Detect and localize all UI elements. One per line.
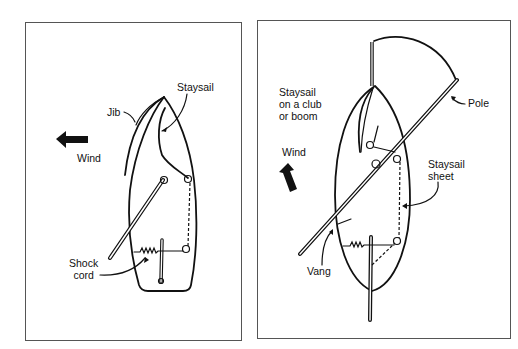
- label-vang: Vang: [307, 265, 331, 277]
- spinnaker-sail: [374, 37, 456, 80]
- staysail-sail: [159, 108, 188, 178]
- vang-leader: [322, 231, 332, 265]
- wind-arrow-right: [279, 163, 297, 192]
- wind-arrow-left: [56, 131, 88, 148]
- label-shock-cord: Shock cord: [69, 257, 98, 281]
- block-upper-left: [185, 176, 192, 183]
- shock-cord-leader: [100, 258, 145, 275]
- sheet-line-left: [188, 183, 190, 246]
- block-lower-left: [183, 246, 190, 253]
- staysail-sheet-line: [399, 162, 400, 238]
- label-wind-right: Wind: [282, 146, 306, 158]
- jib-leader: [124, 112, 135, 122]
- label-staysail-sheet: Staysail sheet: [428, 158, 465, 182]
- label-wind-left: Wind: [77, 152, 101, 164]
- label-pole: Pole: [468, 97, 489, 109]
- label-staysail-club: Staysail on a club or boom: [279, 86, 322, 122]
- label-staysail-left: Staysail: [177, 81, 214, 93]
- shock-cord-spring: [134, 248, 183, 253]
- block-upper-right: [394, 156, 401, 163]
- label-jib: Jib: [107, 106, 120, 118]
